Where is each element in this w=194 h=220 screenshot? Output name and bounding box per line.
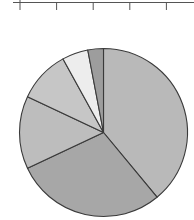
top-axis (13, 0, 194, 10)
pie-slices (19, 49, 187, 217)
pie-chart (0, 0, 194, 220)
